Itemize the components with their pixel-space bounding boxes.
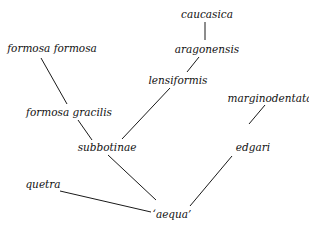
edge-formosa_formosa-to-formosa_gracilis <box>41 58 67 104</box>
node-quetra: quetra <box>25 179 60 190</box>
node-aequa: ‘aequa’ <box>153 209 192 220</box>
node-marginodentata: marginodentata <box>227 93 309 104</box>
node-aragonensis: aragonensis <box>175 44 239 55</box>
node-subbotinae: subbotinae <box>78 142 137 153</box>
edge-aragonensis-to-lensiformis <box>187 57 199 72</box>
edge-lensiformis-to-subbotinae <box>122 88 170 139</box>
edge-edgari-to-aequa <box>190 156 232 206</box>
node-formosa-gracilis: formosa gracilis <box>26 107 112 118</box>
node-formosa-formosa: formosa formosa <box>7 43 97 54</box>
edge-quetra-to-aequa <box>60 191 151 212</box>
node-edgari: edgari <box>236 142 270 153</box>
edge-marginodentata-to-edgari <box>249 105 265 124</box>
edge-formosa_gracilis-to-subbotinae <box>78 120 92 140</box>
node-lensiformis: lensiformis <box>148 75 207 86</box>
node-caucasica: caucasica <box>181 9 233 20</box>
edge-subbotinae-to-aequa <box>108 155 156 200</box>
